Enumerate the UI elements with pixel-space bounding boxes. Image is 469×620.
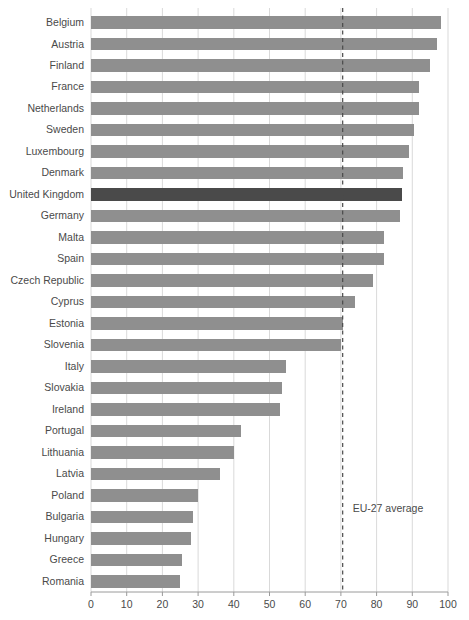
bar — [91, 360, 286, 373]
category-label: Malta — [58, 231, 84, 243]
category-label: Lithuania — [41, 446, 84, 458]
x-tick-label: 10 — [121, 598, 133, 610]
bar — [91, 81, 419, 94]
category-label: Greece — [50, 553, 85, 565]
bar — [91, 468, 220, 481]
chart-canvas: EU-27 average BelgiumAustriaFinlandFranc… — [0, 0, 469, 620]
category-label: Bulgaria — [45, 510, 84, 522]
category-label: Spain — [57, 252, 84, 264]
bar — [91, 124, 414, 137]
x-axis — [91, 592, 448, 596]
bar — [91, 403, 280, 416]
category-label: Netherlands — [27, 102, 84, 114]
bar — [91, 575, 180, 588]
bar — [91, 167, 403, 180]
bar — [91, 554, 182, 567]
bar-highlighted — [91, 188, 402, 201]
x-tick-labels: 0102030405060708090100 — [88, 598, 457, 610]
category-label: France — [51, 80, 84, 92]
eu27-average-label: EU-27 average — [353, 502, 424, 514]
category-label: Romania — [42, 575, 84, 587]
category-label: Denmark — [41, 166, 84, 178]
category-label: Portugal — [45, 424, 84, 436]
bar — [91, 38, 437, 51]
category-label: Latvia — [56, 467, 84, 479]
bar — [91, 16, 441, 29]
category-label: Austria — [51, 38, 84, 50]
x-tick-label: 80 — [371, 598, 383, 610]
x-tick-label: 100 — [439, 598, 457, 610]
bar — [91, 382, 282, 395]
category-label: United Kingdom — [9, 188, 84, 200]
x-tick-label: 90 — [406, 598, 418, 610]
bar — [91, 425, 241, 438]
bar — [91, 59, 430, 72]
category-label: Luxembourg — [26, 145, 85, 157]
bar — [91, 317, 343, 330]
category-label: Finland — [50, 59, 85, 71]
x-tick-label: 50 — [264, 598, 276, 610]
category-label: Sweden — [46, 123, 84, 135]
x-tick-label: 40 — [228, 598, 240, 610]
bar — [91, 296, 355, 309]
category-labels: BelgiumAustriaFinlandFranceNetherlandsSw… — [9, 16, 84, 587]
x-tick-label: 60 — [299, 598, 311, 610]
category-label: Hungary — [44, 532, 84, 544]
bar — [91, 532, 191, 545]
bar — [91, 339, 341, 352]
category-label: Estonia — [49, 317, 84, 329]
bar — [91, 253, 384, 266]
bar — [91, 210, 400, 223]
bar — [91, 489, 198, 502]
category-label: Italy — [65, 360, 85, 372]
bar — [91, 274, 373, 287]
bar — [91, 145, 409, 158]
category-label: Cyprus — [51, 295, 84, 307]
bar — [91, 231, 384, 244]
category-label: Czech Republic — [10, 274, 84, 286]
bar — [91, 446, 234, 459]
x-tick-label: 0 — [88, 598, 94, 610]
category-label: Belgium — [46, 16, 84, 28]
category-label: Ireland — [52, 403, 84, 415]
bar-chart: EU-27 average BelgiumAustriaFinlandFranc… — [0, 0, 469, 620]
x-tick-label: 20 — [157, 598, 169, 610]
category-label: Germany — [41, 209, 85, 221]
bar — [91, 102, 419, 115]
x-tick-label: 70 — [335, 598, 347, 610]
x-tick-label: 30 — [192, 598, 204, 610]
bar — [91, 511, 193, 524]
category-label: Slovakia — [44, 381, 84, 393]
category-label: Poland — [51, 489, 84, 501]
category-label: Slovenia — [44, 338, 84, 350]
